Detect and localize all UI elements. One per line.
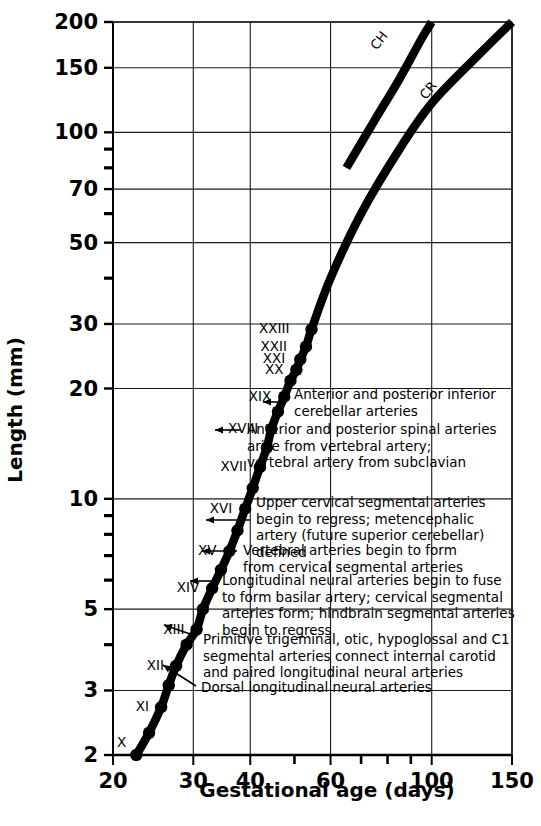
stage-marker-dot <box>206 582 218 594</box>
annotation-xiv: Longitudinal neural arteries begin to fu… <box>222 572 515 638</box>
annotation-line: Vertebral arteries begin to form <box>243 542 457 558</box>
gestational-age-length-chart: XXIXIIXIIIXIVXVXVIXVIIXVIIIXIXXXXXIXXIIX… <box>0 0 541 826</box>
annotation-line: Anterior and posterior inferior <box>294 386 496 402</box>
stage-label-xi: XI <box>136 698 149 714</box>
annotation-xv: Vertebral arteries begin to form from ce… <box>243 542 463 575</box>
stage-label-x: X <box>117 734 126 750</box>
annotation-line: Upper cervical segmental arteries <box>256 494 486 510</box>
annotation-xii: Dorsal longitudinal neural arteries <box>201 679 432 695</box>
x-tick-label-150: 150 <box>490 769 534 793</box>
y-tick-label-100: 100 <box>54 120 98 144</box>
y-tick-label-5: 5 <box>83 597 98 621</box>
y-tick-label-3: 3 <box>83 678 98 702</box>
stage-label-xvi: XVI <box>210 500 232 516</box>
annotation-text-group: Anterior and posterior inferior cerebell… <box>201 386 515 695</box>
stage-label-xvii: XVII <box>220 458 246 474</box>
leader-arrowhead-xvi <box>206 516 214 523</box>
annotation-line: to form basilar artery; cervical segment… <box>222 589 503 605</box>
stage-label-xix: XIX <box>249 388 271 404</box>
annotation-line: segmental arteries connect internal caro… <box>203 648 496 664</box>
stage-marker-dot <box>143 727 155 739</box>
stage-marker-dot <box>190 623 202 635</box>
stage-label-xiv: XIV <box>177 579 200 595</box>
stage-marker-dot <box>294 353 306 365</box>
stage-marker-dot <box>180 638 192 650</box>
annotation-line: cerebellar arteries <box>294 403 418 419</box>
stage-label-xxiii: XXIII <box>259 320 289 336</box>
annotation-line: Dorsal longitudinal neural arteries <box>201 679 432 695</box>
y-tick-label-70: 70 <box>69 177 98 201</box>
annotation-xviii: Anterior and posterior spinal arteries a… <box>247 421 497 470</box>
annotation-xiii: Primitive trigeminal, otic, hypoglossal … <box>203 631 510 680</box>
y-tick-label-200: 200 <box>54 10 98 34</box>
x-axis-title: Gestational age (days) <box>199 778 454 802</box>
x-tick-label-20: 20 <box>98 769 127 793</box>
stage-marker-dot <box>272 405 284 417</box>
stage-label-xii: XII <box>147 657 164 673</box>
annotation-line: begin to regress; metencephalic <box>256 511 474 527</box>
stage-marker-dot <box>247 482 259 494</box>
stage-marker-dot <box>231 524 243 536</box>
stage-label-xxii: XXII <box>261 338 287 354</box>
annotation-line: Longitudinal neural arteries begin to fu… <box>222 572 502 588</box>
annotation-line: and paired longitudinal neural arteries <box>203 664 463 680</box>
leader-arrowhead-xviii <box>215 426 223 433</box>
y-tick-label-150: 150 <box>54 56 98 80</box>
stage-marker-dot <box>239 502 251 514</box>
stage-label-xv: XV <box>198 542 217 558</box>
annotation-xix: Anterior and posterior inferior cerebell… <box>294 386 496 419</box>
y-tick-label-20: 20 <box>69 377 98 401</box>
stage-marker-dot <box>130 749 142 761</box>
annotation-line: arteries form; hindbrain segmental arter… <box>222 605 515 621</box>
stage-marker-dot <box>300 341 312 353</box>
stage-marker-dot <box>163 679 175 691</box>
y-tick-label-30: 30 <box>69 312 98 336</box>
stage-marker-dot <box>155 701 167 713</box>
stage-marker-dot <box>197 603 209 615</box>
annotation-line: Primitive trigeminal, otic, hypoglossal … <box>203 631 510 647</box>
annotation-line: vertebral artery from subclavian <box>247 454 466 470</box>
y-tick-label-2: 2 <box>83 743 98 767</box>
stage-marker-dot <box>278 390 290 402</box>
annotation-line: artery (future superior cerebellar) <box>256 527 484 543</box>
annotation-line: arise from vertebral artery; <box>247 438 431 454</box>
y-tick-label-50: 50 <box>69 231 98 255</box>
figure-container: XXIXIIXIIIXIVXVXVIXVIIXVIIIXIXXXXXIXXIIX… <box>0 0 541 826</box>
annotation-line: Anterior and posterior spinal arteries <box>247 421 497 437</box>
y-axis-title: Length (mm) <box>3 337 27 483</box>
stage-marker-dot <box>305 323 317 335</box>
y-tick-label-10: 10 <box>69 487 98 511</box>
stage-label-xiii: XIII <box>163 621 184 637</box>
curve-label-ch: CH <box>367 28 390 52</box>
